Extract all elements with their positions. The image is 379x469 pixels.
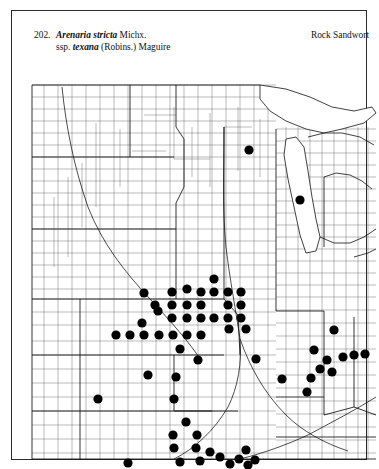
occurrence-dot xyxy=(182,313,191,322)
map-canvas xyxy=(24,67,378,469)
occurrence-dot xyxy=(169,394,178,403)
occurrence-dot xyxy=(111,330,120,339)
occurrence-dot xyxy=(360,349,369,358)
plate-caption: 202. Arenaria stricta Michx. ssp. texana… xyxy=(23,23,379,65)
occurrence-dot xyxy=(295,195,304,204)
scientific-name-authority: Michx. xyxy=(120,30,147,40)
occurrence-dot xyxy=(182,330,191,339)
occurrence-dot xyxy=(244,145,253,154)
occurrence-dot xyxy=(329,325,338,334)
occurrence-dot xyxy=(167,287,176,296)
occurrence-dot xyxy=(168,330,177,339)
occurrence-dot xyxy=(175,457,184,466)
occurrence-dot xyxy=(209,287,218,296)
distribution-map xyxy=(24,67,378,469)
plate-number: 202. xyxy=(34,30,50,41)
occurrence-dot xyxy=(93,394,102,403)
occurrence-dot xyxy=(277,374,286,383)
occurrence-dot xyxy=(223,313,232,322)
occurrence-dot xyxy=(322,355,331,364)
occurrence-dot xyxy=(169,443,178,452)
occurrence-dot xyxy=(137,318,146,327)
plate-frame: 202. Arenaria stricta Michx. ssp. texana… xyxy=(11,10,367,460)
occurrence-dot xyxy=(143,370,152,379)
occurrence-dot xyxy=(223,287,232,296)
occurrence-dot xyxy=(139,288,148,297)
occurrence-dot xyxy=(139,330,148,339)
occurrence-dot xyxy=(224,324,233,333)
occurrence-dot xyxy=(192,430,201,439)
occurrence-dot xyxy=(241,445,250,454)
occurrence-dot xyxy=(175,344,184,353)
subspecies-prefix: ssp. xyxy=(56,42,70,52)
occurrence-dot xyxy=(236,287,245,296)
occurrence-dot xyxy=(154,330,163,339)
occurrence-dot xyxy=(338,352,347,361)
occurrence-dot xyxy=(205,447,214,456)
occurrence-dot xyxy=(225,459,234,468)
great-lakes xyxy=(260,85,376,257)
occurrence-dot xyxy=(327,367,336,376)
occurrence-dot xyxy=(223,300,232,309)
occurrence-dot xyxy=(251,354,260,363)
occurrence-dot xyxy=(209,274,218,283)
occurrence-dot xyxy=(171,372,180,381)
occurrence-dot xyxy=(168,430,177,439)
occurrence-dot xyxy=(315,364,324,373)
occurrence-dot xyxy=(309,345,318,354)
occurrence-dot xyxy=(236,300,245,309)
occurrence-dot xyxy=(123,458,132,467)
occurrence-dot-layer xyxy=(93,145,369,469)
occurrence-dot xyxy=(209,313,218,322)
occurrence-dot xyxy=(306,373,315,382)
occurrence-dot xyxy=(167,313,176,322)
occurrence-dot xyxy=(241,324,250,333)
occurrence-dot xyxy=(196,300,205,309)
occurrence-dot xyxy=(191,443,200,452)
occurrence-dot xyxy=(182,300,191,309)
occurrence-dot xyxy=(215,452,224,461)
occurrence-dot xyxy=(125,330,134,339)
scientific-name-binomial: Arenaria stricta xyxy=(56,30,117,40)
occurrence-dot xyxy=(150,300,159,309)
occurrence-dot xyxy=(302,387,311,396)
common-name: Rock Sandwort xyxy=(311,30,369,41)
occurrence-dot xyxy=(193,355,202,364)
occurrence-dot xyxy=(236,313,245,322)
occurrence-dot xyxy=(234,454,243,463)
occurrence-dot xyxy=(181,417,190,426)
subspecies-authority: (Robins.) Maguire xyxy=(101,42,170,52)
occurrence-dot xyxy=(349,350,358,359)
subspecies-line: ssp. texana (Robins.) Maguire xyxy=(56,42,170,53)
occurrence-dot xyxy=(182,284,191,293)
occurrence-dot xyxy=(195,456,204,465)
occurrence-dot xyxy=(196,287,205,296)
occurrence-dot xyxy=(196,313,205,322)
occurrence-dot xyxy=(167,300,176,309)
subspecies-epithet: texana xyxy=(73,42,99,52)
occurrence-dot xyxy=(196,330,205,339)
scientific-name: Arenaria stricta Michx. xyxy=(56,30,146,41)
